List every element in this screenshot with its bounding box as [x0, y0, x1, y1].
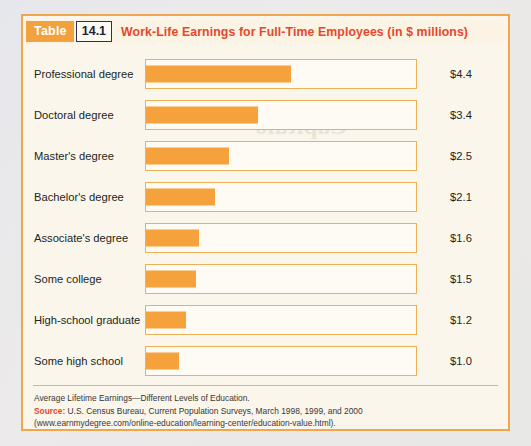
row-value: $1.0 — [417, 355, 505, 367]
bar-track — [145, 141, 417, 171]
bar-fill — [146, 270, 196, 287]
row-label: Bachelor's degree — [23, 191, 145, 203]
bar-track — [145, 223, 417, 253]
bar-track — [145, 305, 417, 335]
row-label: Some college — [23, 273, 145, 285]
row-value: $1.6 — [417, 232, 505, 244]
figure-footer: Average Lifetime Earnings—Different Leve… — [34, 392, 496, 430]
source-label: Source: — [34, 406, 65, 416]
footer-divider — [33, 385, 498, 386]
table-row: Doctoral degree$3.4 — [23, 94, 508, 135]
row-label: Associate's degree — [23, 232, 145, 244]
footer-caption: Average Lifetime Earnings—Different Leve… — [34, 392, 496, 405]
bar-track — [145, 264, 417, 294]
table-number: 14.1 — [76, 21, 112, 42]
footer-url: (www.earnmydegree.com/online-education/l… — [34, 417, 496, 430]
row-value: $3.4 — [417, 109, 505, 121]
row-value: $1.2 — [417, 314, 505, 326]
row-value: $1.5 — [417, 273, 505, 285]
scanned-page: Table 14.1 Work-Life Earnings for Full-T… — [0, 0, 531, 446]
row-label: Master's degree — [23, 150, 145, 162]
bar-fill — [146, 311, 186, 328]
row-label: Doctoral degree — [23, 109, 145, 121]
bar-track — [145, 100, 417, 130]
bar-track — [145, 182, 417, 212]
row-value: $4.4 — [417, 68, 505, 80]
bar-fill — [146, 147, 229, 164]
bar-chart-rows: Professional degree$4.4Doctoral degree$3… — [23, 53, 508, 381]
page-title: Work-Life Earnings for Full-Time Employe… — [121, 25, 468, 39]
bar-fill — [146, 106, 258, 123]
table-row: Some college$1.5 — [23, 258, 508, 299]
table-label: Table — [26, 21, 74, 42]
row-value: $2.1 — [417, 191, 505, 203]
table-figure: Table 14.1 Work-Life Earnings for Full-T… — [21, 14, 510, 431]
bar-track — [145, 59, 417, 89]
bar-fill — [146, 188, 215, 205]
bar-fill — [146, 65, 291, 82]
bar-fill — [146, 229, 199, 246]
bar-fill — [146, 352, 179, 369]
footer-source: Source: U.S. Census Bureau, Current Popu… — [34, 405, 496, 418]
bar-track — [145, 346, 417, 376]
table-row: Master's degree$2.5 — [23, 135, 508, 176]
table-row: Some high school$1.0 — [23, 340, 508, 381]
source-text: U.S. Census Bureau, Current Population S… — [68, 406, 363, 416]
table-row: Bachelor's degree$2.1 — [23, 176, 508, 217]
row-label: Some high school — [23, 355, 145, 367]
table-row: High-school graduate$1.2 — [23, 299, 508, 340]
row-value: $2.5 — [417, 150, 505, 162]
table-row: Associate's degree$1.6 — [23, 217, 508, 258]
figure-header: Table 14.1 Work-Life Earnings for Full-T… — [26, 19, 505, 44]
row-label: High-school graduate — [23, 314, 145, 326]
row-label: Professional degree — [23, 68, 145, 80]
table-row: Professional degree$4.4 — [23, 53, 508, 94]
